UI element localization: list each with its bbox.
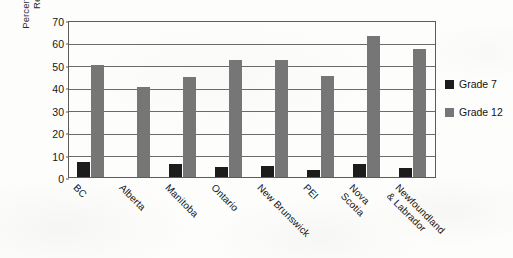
y-axis-tick-mark	[66, 66, 69, 67]
x-axis-tick-label: Ontario	[209, 182, 241, 214]
y-axis-title: Percentage of Students Reporting Use	[13, 0, 49, 57]
y-axis-tick-label: 20	[52, 129, 64, 140]
y-axis-tick-label: 50	[52, 62, 64, 73]
x-axis-tick-label: Nova Scotia	[339, 182, 375, 218]
bar	[183, 77, 196, 177]
bar	[307, 170, 320, 177]
x-axis-tick-label: Alberta	[117, 182, 148, 213]
chart-page: Percentage of Students Reporting Use 010…	[0, 0, 513, 258]
gridline	[69, 66, 435, 67]
bar	[353, 164, 366, 177]
y-axis-tick-label: 40	[52, 84, 64, 95]
y-axis-tick-label: 30	[52, 106, 64, 117]
gridline	[69, 111, 435, 112]
y-axis-tick-mark	[66, 111, 69, 112]
y-axis-tick-mark	[66, 44, 69, 45]
chart-legend: Grade 7Grade 12	[445, 79, 511, 135]
bar	[321, 76, 334, 177]
bar	[91, 65, 104, 177]
legend-label: Grade 12	[459, 107, 503, 118]
legend-item: Grade 12	[445, 107, 511, 118]
y-axis-tick-mark	[66, 156, 69, 157]
gridline	[69, 44, 435, 45]
x-axis-tick-label: Manitoba	[163, 182, 201, 220]
bar	[399, 168, 412, 177]
y-axis-tick-mark	[66, 22, 69, 23]
bar	[261, 166, 274, 177]
y-axis-tick-label: 70	[52, 17, 64, 28]
legend-item: Grade 7	[445, 79, 511, 90]
bar	[137, 87, 150, 177]
gridline	[69, 156, 435, 157]
y-axis-tick-label: 60	[52, 39, 64, 50]
y-axis-tick-mark	[66, 179, 69, 180]
x-axis-tick-label: PEI	[301, 182, 321, 202]
legend-swatch-icon	[445, 108, 454, 117]
x-axis-tick-label: BC	[71, 182, 89, 200]
plot-area: 010203040506070	[68, 21, 436, 178]
y-axis-tick-mark	[66, 89, 69, 90]
bar	[229, 60, 242, 177]
y-axis-tick-label: 10	[52, 151, 64, 162]
bar	[169, 164, 182, 177]
y-axis-tick-label: 0	[58, 174, 64, 185]
bar	[275, 60, 288, 177]
bar	[413, 49, 426, 177]
gridline	[69, 89, 435, 90]
bar	[77, 162, 90, 177]
legend-swatch-icon	[445, 80, 454, 89]
legend-label: Grade 7	[459, 79, 497, 90]
x-axis-tick-label: Newfoundland & Labrador	[385, 182, 447, 244]
bar	[367, 36, 380, 177]
gridline	[69, 134, 435, 135]
y-axis-tick-mark	[66, 134, 69, 135]
bar	[215, 167, 228, 177]
